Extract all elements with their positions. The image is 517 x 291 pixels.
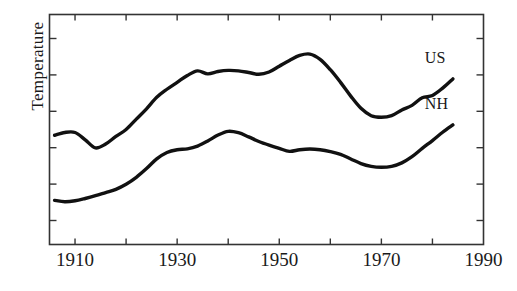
y-axis-ticks-left <box>50 39 57 221</box>
chart-plot-area <box>0 0 517 291</box>
y-axis-ticks-right <box>477 39 484 221</box>
x-tick-label-1990: 1990 <box>465 249 503 271</box>
series-line-us <box>55 54 453 148</box>
plot-frame <box>50 15 484 245</box>
x-tick-label-1950: 1950 <box>260 249 298 271</box>
temperature-line-chart: Temperature 19101930195019701990 USNH <box>0 0 517 291</box>
x-axis-ticks-top <box>75 15 432 21</box>
series-lines <box>55 54 453 202</box>
series-label-nh: NH <box>425 95 448 113</box>
x-axis-ticks-bottom <box>75 239 432 245</box>
x-tick-label-1970: 1970 <box>362 249 400 271</box>
x-tick-label-1930: 1930 <box>158 249 196 271</box>
x-tick-label-1910: 1910 <box>56 249 94 271</box>
series-label-us: US <box>425 49 445 67</box>
